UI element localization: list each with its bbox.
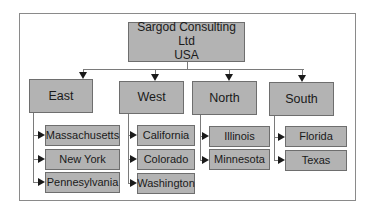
state-label: Florida [299,130,333,143]
root-node-subtitle: USA [174,49,199,63]
north-child-arrow-icon [202,132,209,140]
region-east-label: East [48,89,73,103]
south-arrow-icon [298,75,306,82]
root-node-title: Sargod Consulting Ltd [129,21,244,49]
south-branch-vertical [274,116,275,161]
state-label: California [143,129,189,142]
region-north: North [192,81,257,115]
west-child-arrow-icon [130,179,137,187]
state-label: Illinois [224,130,255,143]
east-branch-vertical [33,113,34,183]
state-new-york: New York [45,149,120,170]
state-illinois: Illinois [209,126,270,147]
region-south-label: South [285,92,318,106]
state-label: Pennesylvania [47,176,119,189]
west-child-arrow-icon [130,155,137,163]
east-child-arrow-icon [38,178,45,186]
root-node: Sargod Consulting Ltd USA [128,22,245,62]
region-east: East [29,79,93,113]
region-north-label: North [209,91,240,105]
west-child-arrow-icon [130,131,137,139]
state-washington: Washington [137,173,195,194]
state-massachusetts: Massachusetts [45,125,120,146]
west-arrow-icon [151,74,159,81]
west-branch-vertical [128,114,129,184]
state-label: Colorado [144,153,189,166]
state-label: New York [59,153,105,166]
state-label: Washington [137,177,195,190]
east-arrow-icon [79,72,87,79]
north-child-arrow-icon [202,156,209,164]
region-horizontal-connector [83,69,304,70]
state-label: Massachusetts [46,129,119,142]
south-child-arrow-icon [278,133,285,141]
region-west-label: West [137,90,165,104]
state-pennsylvania: Pennesylvania [45,172,120,193]
region-south: South [269,82,334,116]
state-colorado: Colorado [137,149,195,170]
state-label: Minnesota [214,153,265,166]
state-minnesota: Minnesota [209,149,270,170]
north-branch-vertical [200,115,201,160]
region-west: West [119,81,184,114]
state-label: Texas [302,154,331,167]
east-child-arrow-icon [38,155,45,163]
state-california: California [137,125,195,146]
east-child-arrow-icon [38,131,45,139]
state-florida: Florida [285,126,347,147]
south-child-arrow-icon [278,156,285,164]
state-texas: Texas [285,150,347,171]
north-arrow-icon [225,74,233,81]
